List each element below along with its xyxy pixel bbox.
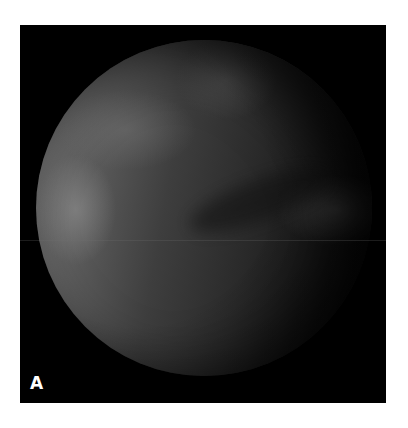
figure-panel: A xyxy=(20,25,386,403)
scan-seam-line xyxy=(20,240,386,241)
endoscopic-circular-view xyxy=(36,40,372,376)
tissue-fold-shadow xyxy=(184,156,339,245)
panel-label: A xyxy=(30,375,43,392)
